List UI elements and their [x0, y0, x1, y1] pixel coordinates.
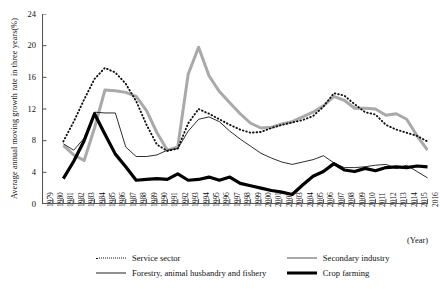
x-tick-label: 2001 — [274, 192, 283, 207]
x-tick-label: 1988 — [139, 192, 148, 207]
x-tick-label: 1985 — [108, 192, 117, 207]
x-tick-label: 1999 — [254, 192, 263, 207]
y-tick-label: 4 — [14, 167, 36, 177]
x-tick-label: 2015 — [420, 192, 429, 207]
x-tick-label: 2002 — [285, 192, 294, 207]
x-tick-label: 1983 — [87, 192, 96, 207]
x-tick-label: 1995 — [212, 192, 221, 207]
series-line-crop-farming — [63, 114, 427, 195]
x-tick-label: 1980 — [56, 192, 65, 207]
y-tick-label: 8 — [14, 135, 36, 145]
y-tick-label: 16 — [14, 72, 36, 82]
y-tick-label: 12 — [14, 104, 36, 114]
x-tick-label: 2005 — [316, 192, 325, 207]
x-tick-label: 2007 — [337, 192, 346, 207]
legend-swatch-thick-icon — [287, 268, 317, 278]
x-tick-label: 2000 — [264, 192, 273, 207]
legend-label: Secondary industry — [323, 253, 390, 263]
x-tick-label: 2003 — [295, 192, 304, 207]
x-tick-label: 1996 — [222, 192, 231, 207]
chart-legend: Service sector Secondary industry Forest… — [96, 250, 426, 280]
series-line-secondary-industry — [63, 47, 427, 160]
x-tick-label: 1990 — [160, 192, 169, 207]
legend-item-crop-farming: Crop farming — [287, 268, 426, 278]
x-tick-label: 2013 — [399, 192, 408, 207]
x-tick-label: 1992 — [181, 192, 190, 207]
x-tick-label: 1997 — [233, 192, 242, 207]
x-tick-label: 2012 — [389, 192, 398, 207]
legend-label: Service sector — [132, 253, 180, 263]
y-tick-label: 24 — [14, 9, 36, 19]
legend-swatch-gray-icon — [287, 253, 317, 263]
plot-area — [42, 14, 428, 204]
x-tick-label: 1986 — [118, 192, 127, 207]
x-tick-label: 1991 — [170, 192, 179, 207]
series-line-forestry-animal-husbandry-and-fishery — [63, 112, 427, 178]
legend-row: Forestry, animal husbandry and fishery C… — [96, 265, 426, 280]
x-tick-label: 1979 — [46, 192, 55, 207]
x-tick-label: 1994 — [202, 192, 211, 207]
legend-label: Crop farming — [323, 268, 370, 278]
x-tick-label: 1998 — [243, 192, 252, 207]
legend-item-service-sector: Service sector — [96, 253, 287, 263]
x-axis-caption: (Year) — [407, 236, 428, 245]
x-tick-label: 2004 — [306, 192, 315, 207]
legend-row: Service sector Secondary industry — [96, 250, 426, 265]
legend-swatch-dotted-icon — [96, 253, 126, 263]
x-tick-label: 2008 — [347, 192, 356, 207]
legend-label: Forestry, animal husbandry and fishery — [132, 268, 266, 278]
y-tick-label: 20 — [14, 40, 36, 50]
x-tick-label: 2014 — [410, 192, 419, 207]
x-tick-label: 1982 — [77, 192, 86, 207]
y-tick-label: 0 — [14, 199, 36, 209]
x-tick-label: 1981 — [66, 192, 75, 207]
x-tick-label: 1989 — [150, 192, 159, 207]
legend-item-secondary-industry: Secondary industry — [287, 253, 426, 263]
x-tick-label: 1987 — [129, 192, 138, 207]
legend-swatch-thin-icon — [96, 268, 126, 278]
x-tick-label: 2006 — [326, 192, 335, 207]
x-tick-label: 1984 — [98, 192, 107, 207]
x-tick-label: 2016 — [431, 192, 440, 207]
legend-item-forestry: Forestry, animal husbandry and fishery — [96, 268, 287, 278]
x-tick-label: 2011 — [378, 192, 387, 207]
x-tick-label: 2009 — [358, 192, 367, 207]
chart-canvas — [42, 14, 428, 204]
x-tick-label: 2010 — [368, 192, 377, 207]
x-tick-label: 1993 — [191, 192, 200, 207]
